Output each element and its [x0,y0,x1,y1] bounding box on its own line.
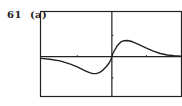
graph-plot [0,0,182,106]
